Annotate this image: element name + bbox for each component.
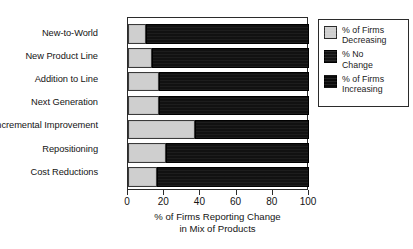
x-axis-title-line1: % of Firms Reporting Change xyxy=(127,211,308,223)
legend-label-increasing: % of Firms Increasing xyxy=(342,74,384,94)
bar-segment-no-change-increasing xyxy=(146,24,309,44)
bar-segment-no-change-increasing xyxy=(166,143,309,163)
legend-label-decreasing: % of Firms Decreasing xyxy=(342,25,387,45)
bar-segment-decreasing xyxy=(128,96,159,116)
bar-row xyxy=(128,167,307,187)
x-axis-tick-mark xyxy=(272,190,273,195)
bar-row xyxy=(128,72,307,92)
category-label: New-to-World xyxy=(42,28,98,38)
legend-label-no-change-line1: % No xyxy=(342,49,373,59)
x-axis-title-line2: in Mix of Products xyxy=(127,223,308,235)
bar-segment-no-change-increasing xyxy=(152,48,309,68)
x-axis-tick-label: 40 xyxy=(194,196,205,207)
category-label: Cost Reductions xyxy=(31,167,98,177)
legend-swatch-decreasing-icon xyxy=(324,26,337,39)
legend-label-no-change-line2: Change xyxy=(342,60,373,70)
x-axis-tick-mark xyxy=(163,190,164,195)
category-label: Incremental Improvement xyxy=(0,120,98,130)
bar-segment-decreasing xyxy=(128,72,159,92)
x-axis-tick-label: 80 xyxy=(266,196,277,207)
bar-segment-no-change-increasing xyxy=(159,96,309,116)
legend-item-increasing: % of Firms Increasing xyxy=(324,74,404,94)
bar-segment-decreasing xyxy=(128,24,146,44)
legend-label-increasing-line2: Increasing xyxy=(342,84,384,94)
bar-segment-no-change-increasing xyxy=(159,72,309,92)
category-label: Addition to Line xyxy=(35,74,98,84)
legend-label-no-change: % No Change xyxy=(342,49,373,69)
bars-layer xyxy=(128,18,307,189)
bar-segment-decreasing xyxy=(128,167,157,187)
bar-segment-decreasing xyxy=(128,120,195,140)
bar-row xyxy=(128,48,307,68)
legend-item-no-change: % No Change xyxy=(324,49,404,69)
legend-label-decreasing-line2: Decreasing xyxy=(342,35,387,45)
bar-row xyxy=(128,24,307,44)
x-axis-tick-mark xyxy=(127,190,128,195)
category-label: Repositioning xyxy=(42,144,98,154)
legend-item-decreasing: % of Firms Decreasing xyxy=(324,25,404,45)
x-axis-tick-label: 60 xyxy=(230,196,241,207)
bar-segment-decreasing xyxy=(128,143,166,163)
bar-segment-no-change-increasing xyxy=(157,167,309,187)
x-axis-title: % of Firms Reporting Change in Mix of Pr… xyxy=(127,211,308,235)
x-axis-tick-mark xyxy=(236,190,237,195)
legend-swatch-no-change-icon xyxy=(324,50,337,63)
bar-row xyxy=(128,120,307,140)
bar-segment-no-change-increasing xyxy=(195,120,309,140)
legend: % of Firms Decreasing % No Change % of F… xyxy=(318,19,409,107)
bar-row xyxy=(128,96,307,116)
x-axis-tick-label: 0 xyxy=(124,196,130,207)
legend-swatch-increasing-icon xyxy=(324,75,337,88)
x-axis-tick-label: 100 xyxy=(300,196,317,207)
x-axis-tick-mark xyxy=(308,190,309,195)
bar-segment-decreasing xyxy=(128,48,152,68)
x-axis-tick-label: 20 xyxy=(158,196,169,207)
category-label: Next Generation xyxy=(31,97,98,107)
legend-label-decreasing-line1: % of Firms xyxy=(342,25,387,35)
legend-label-increasing-line1: % of Firms xyxy=(342,74,384,84)
plot-area xyxy=(127,17,308,190)
bar-chart-figure: New-to-World New Product Line Addition t… xyxy=(0,0,413,249)
bar-row xyxy=(128,143,307,163)
category-label: New Product Line xyxy=(25,51,98,61)
x-axis-tick-mark xyxy=(199,190,200,195)
